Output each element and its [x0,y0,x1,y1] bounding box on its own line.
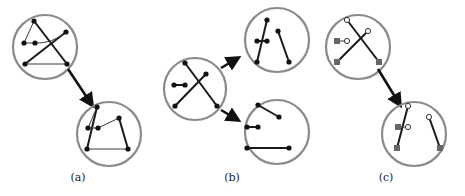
graph-node [116,115,121,120]
graph-node-square [334,38,340,44]
graph-node [203,71,208,76]
panel-a-bottom-graph [77,102,141,166]
graph-node [64,61,69,66]
panel-b-bottom-graph [244,100,309,164]
graph-node [182,82,187,87]
graph-node [125,146,130,151]
transition-arrow-icon [378,69,400,105]
graph-node-square [395,124,401,130]
graph-node [94,104,99,109]
graph-node [85,125,90,130]
graph-node [171,82,176,87]
graph-node [264,38,269,43]
graph-node [255,124,260,129]
graph-node-open [344,38,349,43]
graph-node [255,102,260,107]
graph-node [214,103,219,108]
graph-edge [119,118,128,149]
graph-boundary-circle [326,15,390,79]
graph-node-square [437,145,443,151]
transition-arrow-icon [68,69,92,105]
graph-node [84,146,89,151]
graph-edge [34,21,67,64]
graph-edge [175,74,206,106]
panel-label-a: (a) [70,171,85,184]
graph-node [32,40,37,45]
graph-node [31,18,36,23]
graph-node [63,29,68,34]
graph-edge [35,32,66,43]
graph-node-open [405,103,410,108]
panel-b-top-graph [245,8,309,72]
graph-edge [185,63,217,106]
graph-boundary-circle [382,102,446,166]
diagram-canvas [0,0,465,196]
graph-node-open [405,124,410,129]
graph-node-open [344,17,349,22]
graph-edge [24,21,34,43]
graph-node [244,145,249,150]
graph-node [254,38,259,43]
graph-edge [337,31,368,62]
graph-node-square [334,59,340,65]
graph-node-square [394,145,400,151]
graph-node [276,114,281,119]
graph-node [172,103,177,108]
panel-a [13,15,141,166]
graph-node-open [426,114,431,119]
graph-node [21,40,26,45]
graph-node-open [365,28,370,33]
graph-boundary-circle [164,58,226,120]
graph-edge [347,20,379,62]
graph-node [22,61,27,66]
graph-node [264,17,269,22]
transition-arrow-icon [221,58,238,68]
graph-node [275,28,280,33]
graph-boundary-circle [245,100,309,164]
panel-c [326,15,446,166]
panel-label-b: (b) [224,171,240,184]
panel-label-c: (c) [379,171,394,184]
graph-node [182,60,187,65]
graph-edge [98,118,119,128]
graph-boundary-circle [77,102,141,166]
graph-node [244,124,249,129]
graph-node [254,59,259,64]
panel-b-left-graph [164,58,226,120]
graph-edge [429,117,440,148]
panel-c-top-graph [326,15,390,79]
panel-c-bottom-graph [382,102,446,166]
graph-edge [258,105,279,117]
graph-node [286,59,291,64]
graph-edge [278,31,289,62]
panel-b [164,8,309,164]
graph-node-square [376,59,382,65]
graph-node [95,125,100,130]
transition-arrow-icon [221,110,238,120]
graph-node [286,145,291,150]
